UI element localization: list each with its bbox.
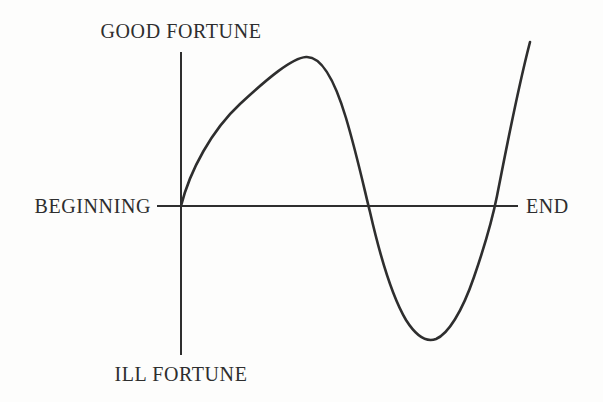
fortune-curve-path	[181, 42, 530, 340]
label-ill-fortune: ILL FORTUNE	[115, 364, 248, 384]
label-end: END	[526, 196, 569, 216]
label-beginning: BEGINNING	[35, 196, 152, 216]
fortune-curve-figure: GOOD FORTUNE BEGINNING END ILL FORTUNE	[0, 0, 603, 402]
label-good-fortune: GOOD FORTUNE	[101, 21, 262, 41]
